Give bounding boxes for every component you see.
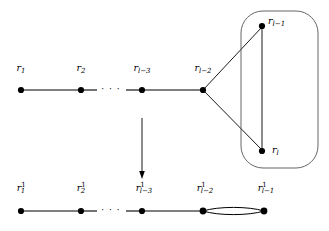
node-rl1 xyxy=(259,23,265,29)
edge-rl2-rl xyxy=(203,90,262,150)
node-rl2-contracted xyxy=(200,208,207,215)
node-r2 xyxy=(78,87,84,93)
node-r2-contracted xyxy=(78,208,84,214)
node-rl1-contracted xyxy=(261,208,268,215)
contraction-arrow xyxy=(139,118,145,179)
label-rl: rl xyxy=(272,145,279,157)
figure-canvas xyxy=(0,0,329,231)
label-r1: r1 xyxy=(16,63,25,75)
node-rl3-contracted xyxy=(139,208,145,214)
label-rl3-contracted: r1l−3 xyxy=(136,182,153,195)
contraction-arrow-head xyxy=(139,171,145,179)
node-rl2 xyxy=(200,87,206,93)
node-rl3 xyxy=(139,87,145,93)
edge-double-lower xyxy=(203,211,264,215)
edge-rl2-rl1 xyxy=(203,27,262,90)
graph-contraction-figure: r1 r2 rl−3 rl−2 rl−1 rl · · · r11 r12 r1… xyxy=(0,0,329,231)
label-rl3: rl−3 xyxy=(133,63,150,75)
edge-double-upper xyxy=(203,207,264,211)
bottom-graph xyxy=(18,207,268,214)
ellipsis-top: · · · xyxy=(101,85,120,94)
ellipsis-bottom: · · · xyxy=(101,206,120,215)
contracted-subgraph-box xyxy=(241,11,318,168)
label-rl1-contracted: r1l−1 xyxy=(258,182,275,195)
label-r2-contracted: r12 xyxy=(77,182,85,195)
label-rl2: rl−2 xyxy=(194,63,211,75)
label-r1-contracted: r11 xyxy=(17,182,25,195)
label-rl1: rl−1 xyxy=(268,16,285,28)
node-r1 xyxy=(18,87,24,93)
node-rl xyxy=(259,148,265,154)
node-r1-contracted xyxy=(18,208,24,214)
label-r2: r2 xyxy=(76,63,85,75)
label-rl2-contracted: r1l−2 xyxy=(197,182,214,195)
